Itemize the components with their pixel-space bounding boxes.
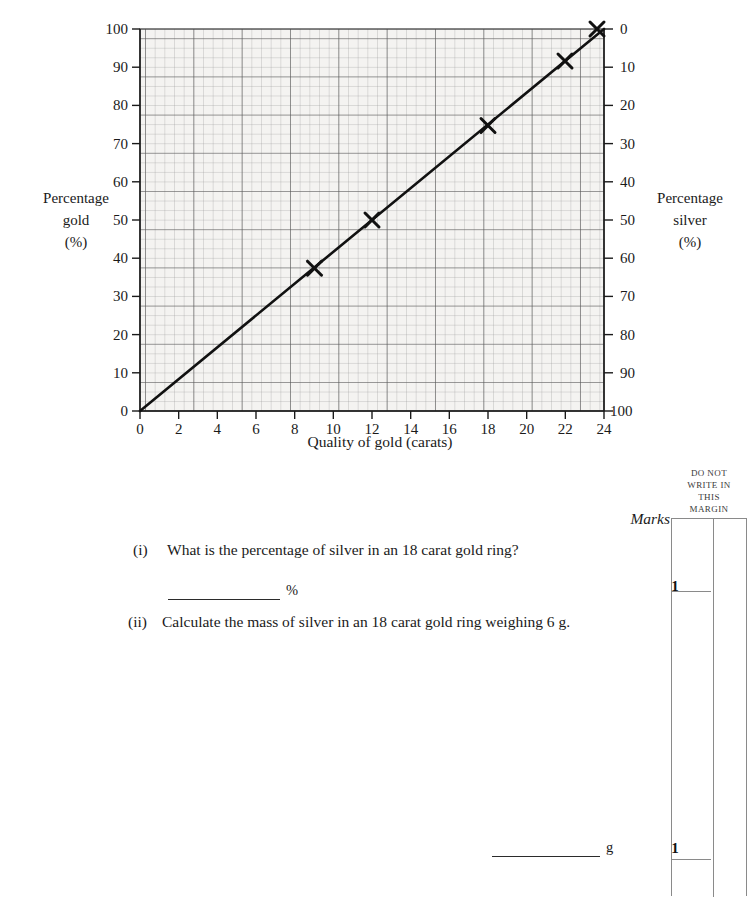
y2-tick-0: 0 xyxy=(620,21,628,37)
question-i: (i) What is the percentage of silver in … xyxy=(133,540,519,560)
margin-warning-line4: MARGIN xyxy=(668,504,750,516)
y2-tick-10: 10 xyxy=(620,59,635,75)
graph-figure: 100 90 80 70 60 50 40 30 20 10 0 xyxy=(0,0,750,470)
x-axis-title: Quality of gold (carats) xyxy=(210,433,550,451)
y-axis-right: 0 10 20 30 40 50 60 70 80 90 100 xyxy=(604,21,635,419)
y-tick-10: 10 xyxy=(113,365,128,381)
answer-unit-i: % xyxy=(286,582,298,599)
answer-unit-ii: g xyxy=(606,839,613,856)
margin-marks-table xyxy=(671,518,747,896)
marks-column-header: Marks xyxy=(604,510,670,528)
y-tick-80: 80 xyxy=(113,97,128,113)
margin-warning-line3: THIS xyxy=(668,492,750,504)
question-ii-text: Calculate the mass of silver in an 18 ca… xyxy=(162,612,570,632)
y-tick-100: 100 xyxy=(106,21,129,37)
y-tick-0: 0 xyxy=(121,403,129,419)
x-tick-2: 2 xyxy=(175,421,183,437)
margin-table-row-divider-2 xyxy=(672,859,711,860)
y2-tick-100: 100 xyxy=(610,403,633,419)
y-tick-90: 90 xyxy=(113,59,128,75)
y-axis-left-title: Percentage gold (%) xyxy=(18,188,134,253)
y2-tick-30: 30 xyxy=(620,136,635,152)
question-ii-number: (ii) xyxy=(128,612,162,632)
y2-tick-90: 90 xyxy=(620,365,635,381)
margin-warning-note: DO NOT WRITE IN THIS MARGIN xyxy=(668,468,750,516)
answer-field-ii[interactable]: g xyxy=(492,840,613,857)
question-ii: (ii) Calculate the mass of silver in an … xyxy=(128,612,570,632)
margin-table-divider xyxy=(713,519,714,897)
y-tick-70: 70 xyxy=(113,136,128,152)
answer-rule-ii[interactable] xyxy=(492,855,600,857)
y-tick-30: 30 xyxy=(113,288,128,304)
y-tick-20: 20 xyxy=(113,327,128,343)
y2-tick-70: 70 xyxy=(620,288,635,304)
y2-tick-80: 80 xyxy=(620,327,635,343)
margin-warning-line1: DO NOT xyxy=(668,468,750,480)
question-i-number: (i) xyxy=(133,540,167,560)
answer-field-i[interactable]: % xyxy=(168,583,298,600)
do-not-write-margin: DO NOT WRITE IN THIS MARGIN xyxy=(668,0,750,896)
y2-tick-20: 20 xyxy=(620,97,635,113)
y-axis-left-title-line2: gold xyxy=(18,210,134,232)
question-i-text: What is the percentage of silver in an 1… xyxy=(167,540,519,560)
margin-warning-line2: WRITE IN xyxy=(668,480,750,492)
margin-table-row-divider-1 xyxy=(672,591,711,592)
question-area: (i) What is the percentage of silver in … xyxy=(0,470,680,896)
x-tick-22: 22 xyxy=(558,421,573,437)
y-axis-left-title-line1: Percentage xyxy=(18,188,134,210)
x-tick-24: 24 xyxy=(597,421,613,437)
x-tick-0: 0 xyxy=(136,421,144,437)
y-axis-left-title-line3: (%) xyxy=(18,232,134,254)
answer-rule-i[interactable] xyxy=(168,598,280,600)
